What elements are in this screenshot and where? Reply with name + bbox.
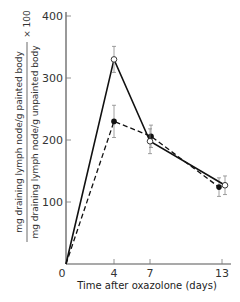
y-label-numerator: mg draining lymph node/g painted body <box>14 51 24 233</box>
y-tick-label: 200 <box>42 134 63 147</box>
x-ticks: 04713 <box>59 259 230 280</box>
y-label-multiplier: × 100 <box>22 10 32 38</box>
filled-circle-marker <box>111 119 117 125</box>
open-circle-marker <box>147 138 153 144</box>
y-ticks: 100200300400 <box>42 10 71 209</box>
series-group <box>66 46 228 264</box>
chart: 100200300400 04713 mg draining lymph nod… <box>0 0 240 302</box>
y-tick-label: 400 <box>42 10 63 23</box>
x-tick-label: 7 <box>147 267 154 280</box>
y-tick-label: 300 <box>42 72 63 85</box>
open-circle-marker <box>222 182 228 188</box>
open-circle-marker <box>111 57 117 63</box>
x-tick-label: 13 <box>215 267 229 280</box>
x-axis-label: Time after oxazolone (days) <box>76 280 217 291</box>
dashed-line <box>66 121 219 264</box>
x-tick-label: 4 <box>111 267 118 280</box>
solid-line <box>66 59 225 264</box>
y-tick-label: 100 <box>42 196 63 209</box>
y-label-denominator: mg draining lymph node/g unpainted body <box>30 45 40 239</box>
y-axis-label: mg draining lymph node/g painted body mg… <box>14 42 40 242</box>
x-tick-label: 0 <box>59 267 66 280</box>
filled-circle-marker <box>216 184 222 190</box>
